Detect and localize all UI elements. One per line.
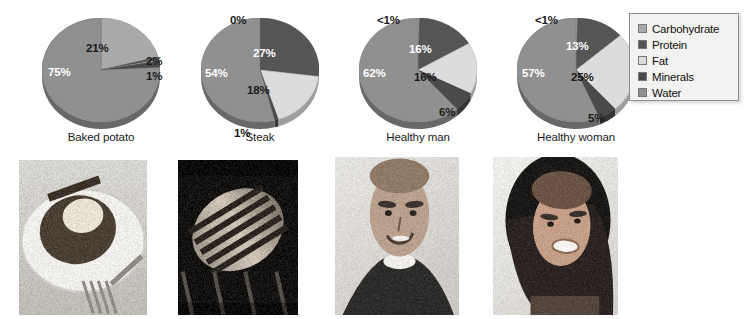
pie-chart-healthy-man: <1%16%16%6%62%Healthy man	[333, 0, 503, 150]
pie-value-label: 62%	[363, 67, 385, 79]
legend-item-carbohydrate[interactable]: Carbohydrate	[638, 21, 738, 36]
baked-potato-photo	[19, 160, 147, 315]
pie-value-label: 27%	[253, 47, 275, 59]
healthy-woman-photo	[493, 157, 618, 315]
pie-value-label: <1%	[535, 14, 558, 26]
chart-caption: Baked potato	[16, 131, 186, 143]
chart-caption: Healthy man	[333, 131, 503, 143]
healthy-man-photo	[335, 157, 459, 315]
pie-value-label: 13%	[566, 40, 588, 52]
pie-value-label: <1%	[377, 14, 400, 26]
pie-wrap: 0%27%18%1%54%	[175, 14, 345, 126]
legend-box: CarbohydrateProteinFatMineralsWater	[629, 13, 739, 101]
legend-label: Protein	[652, 39, 687, 51]
legend-swatch-protein-icon	[638, 40, 647, 49]
pie-wrap: <1%16%16%6%62%	[333, 14, 503, 126]
legend-swatch-fat-icon	[638, 56, 647, 65]
pie-chart-baked-potato: 21%2%1%75%Baked potato	[16, 0, 186, 150]
pie-value-label: 54%	[205, 67, 227, 79]
pie-value-label: 5%	[588, 112, 604, 124]
pie-value-label: 6%	[439, 106, 455, 118]
legend-label: Carbohydrate	[652, 23, 719, 35]
legend-item-protein[interactable]: Protein	[638, 37, 738, 52]
pie-value-label: 75%	[48, 66, 70, 78]
pie-value-label: 16%	[414, 71, 436, 83]
pie-value-label: 18%	[247, 84, 269, 96]
legend-label: Fat	[652, 55, 668, 67]
steak-photo	[178, 160, 298, 315]
legend-label: Water	[652, 87, 681, 99]
legend-label: Minerals	[652, 71, 694, 83]
legend-swatch-minerals-icon	[638, 72, 647, 81]
pie-value-label: 25%	[571, 71, 593, 83]
pie-value-label: 57%	[522, 67, 544, 79]
chart-caption: Steak	[175, 131, 345, 143]
pie-wrap: 21%2%1%75%	[16, 14, 186, 126]
legend-swatch-carbohydrate-icon	[638, 24, 647, 33]
pie-chart-steak: 0%27%18%1%54%Steak	[175, 0, 345, 150]
pie-value-label: 1%	[146, 70, 162, 82]
pie-value-label: 16%	[409, 43, 431, 55]
pie-value-label: 0%	[230, 14, 246, 26]
legend-item-water[interactable]: Water	[638, 85, 738, 100]
legend-swatch-water-icon	[638, 88, 647, 97]
pie-value-label: 21%	[86, 42, 108, 54]
figure-canvas: 21%2%1%75%Baked potato0%27%18%1%54%Steak…	[0, 0, 745, 319]
chart-caption: Healthy woman	[491, 131, 661, 143]
pie-value-label: 2%	[146, 55, 162, 67]
legend-item-fat[interactable]: Fat	[638, 53, 738, 68]
legend-item-minerals[interactable]: Minerals	[638, 69, 738, 84]
